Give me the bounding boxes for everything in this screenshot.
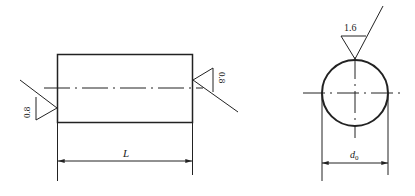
technical-drawing: L 0.8 0.8 d0 1.6 [0, 0, 415, 196]
dimension-label-d0: d0 [350, 149, 359, 162]
roughness-symbol-top: 1.6 [341, 6, 383, 59]
roughness-symbol-right: 0.8 [193, 68, 238, 112]
side-view: L 0.8 0.8 [20, 55, 238, 182]
roughness-value-left: 0.8 [22, 106, 32, 118]
roughness-value-right: 0.8 [217, 72, 227, 84]
dimension-label-L: L [122, 147, 129, 159]
dimension-label-d-sub: 0 [355, 154, 359, 162]
roughness-value-top: 1.6 [344, 22, 357, 33]
roughness-symbol-left: 0.8 [20, 80, 57, 120]
end-view: d0 1.6 [303, 6, 404, 181]
